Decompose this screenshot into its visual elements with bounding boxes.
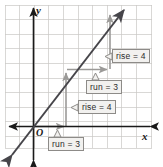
callout-rise-top: rise = 4	[112, 49, 150, 63]
y-axis-label: y	[36, 4, 41, 16]
callout-run-bottom-label: run = 3	[52, 139, 80, 149]
slope-graph-figure: rise = 4 run = 3 rise = 4 run = 3 y x O	[0, 0, 163, 167]
callout-rise-mid: rise = 4	[78, 100, 116, 114]
callout-run-mid-label: run = 3	[90, 82, 118, 92]
callout-run-mid: run = 3	[86, 80, 122, 94]
callout-rise-mid-label: rise = 4	[82, 102, 112, 112]
callout-run-bottom: run = 3	[48, 137, 84, 151]
callout-rise-top-label: rise = 4	[116, 51, 146, 61]
x-axis-label: x	[142, 130, 148, 142]
origin-label: O	[36, 127, 43, 138]
